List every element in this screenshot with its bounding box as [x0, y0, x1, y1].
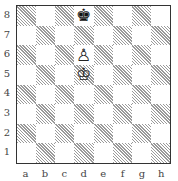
square-b3[interactable]	[36, 104, 55, 124]
rank-label-2: 2	[2, 127, 12, 138]
square-a3[interactable]	[17, 104, 36, 124]
rank-label-6: 6	[2, 48, 12, 59]
rank-label-5: 5	[2, 68, 12, 79]
square-h8[interactable]	[151, 6, 170, 26]
file-label-h: h	[152, 168, 171, 179]
square-d4[interactable]	[74, 85, 93, 105]
square-c4[interactable]	[55, 85, 74, 105]
square-f1[interactable]	[113, 143, 132, 163]
square-a1[interactable]	[17, 143, 36, 163]
black-king-icon[interactable]: ♚	[76, 7, 91, 24]
square-f2[interactable]	[113, 124, 132, 144]
square-g1[interactable]	[132, 143, 151, 163]
square-h2[interactable]	[151, 124, 170, 144]
square-g7[interactable]	[132, 26, 151, 46]
square-f5[interactable]	[113, 65, 132, 85]
square-e6[interactable]	[94, 45, 113, 65]
square-d3[interactable]	[74, 104, 93, 124]
rank-label-1: 1	[2, 146, 12, 157]
square-b6[interactable]	[36, 45, 55, 65]
square-d5[interactable]: ♔	[74, 65, 93, 85]
square-a5[interactable]	[17, 65, 36, 85]
square-d6[interactable]: ♙	[74, 45, 93, 65]
square-d2[interactable]	[74, 124, 93, 144]
square-b8[interactable]	[36, 6, 55, 26]
square-b5[interactable]	[36, 65, 55, 85]
square-h6[interactable]	[151, 45, 170, 65]
square-c6[interactable]	[55, 45, 74, 65]
square-c8[interactable]	[55, 6, 74, 26]
file-label-d: d	[74, 168, 93, 179]
square-g6[interactable]	[132, 45, 151, 65]
square-a6[interactable]	[17, 45, 36, 65]
square-h7[interactable]	[151, 26, 170, 46]
square-f8[interactable]	[113, 6, 132, 26]
square-f6[interactable]	[113, 45, 132, 65]
file-label-c: c	[55, 168, 74, 179]
file-label-g: g	[132, 168, 151, 179]
square-g4[interactable]	[132, 85, 151, 105]
square-g3[interactable]	[132, 104, 151, 124]
rank-label-8: 8	[2, 9, 12, 20]
square-h3[interactable]	[151, 104, 170, 124]
rank-label-3: 3	[2, 107, 12, 118]
square-g8[interactable]	[132, 6, 151, 26]
square-a4[interactable]	[17, 85, 36, 105]
file-label-b: b	[35, 168, 54, 179]
square-d8[interactable]: ♚	[74, 6, 93, 26]
square-f7[interactable]	[113, 26, 132, 46]
square-b1[interactable]	[36, 143, 55, 163]
square-g2[interactable]	[132, 124, 151, 144]
rank-label-7: 7	[2, 29, 12, 40]
rank-label-4: 4	[2, 87, 12, 98]
square-e1[interactable]	[94, 143, 113, 163]
square-e3[interactable]	[94, 104, 113, 124]
square-e4[interactable]	[94, 85, 113, 105]
square-e7[interactable]	[94, 26, 113, 46]
square-h5[interactable]	[151, 65, 170, 85]
square-e2[interactable]	[94, 124, 113, 144]
square-h1[interactable]	[151, 143, 170, 163]
square-b2[interactable]	[36, 124, 55, 144]
file-label-f: f	[113, 168, 132, 179]
square-c2[interactable]	[55, 124, 74, 144]
white-pawn-icon[interactable]: ♙	[76, 47, 91, 64]
white-king-icon[interactable]: ♔	[76, 66, 91, 83]
chess-board: ♚♙♔	[16, 5, 171, 164]
square-c7[interactable]	[55, 26, 74, 46]
square-d7[interactable]	[74, 26, 93, 46]
square-a8[interactable]	[17, 6, 36, 26]
file-label-a: a	[16, 168, 35, 179]
square-c5[interactable]	[55, 65, 74, 85]
square-f4[interactable]	[113, 85, 132, 105]
file-label-e: e	[94, 168, 113, 179]
square-f3[interactable]	[113, 104, 132, 124]
square-c3[interactable]	[55, 104, 74, 124]
square-h4[interactable]	[151, 85, 170, 105]
square-b7[interactable]	[36, 26, 55, 46]
square-b4[interactable]	[36, 85, 55, 105]
square-g5[interactable]	[132, 65, 151, 85]
square-e5[interactable]	[94, 65, 113, 85]
square-e8[interactable]	[94, 6, 113, 26]
square-a2[interactable]	[17, 124, 36, 144]
square-d1[interactable]	[74, 143, 93, 163]
square-c1[interactable]	[55, 143, 74, 163]
square-a7[interactable]	[17, 26, 36, 46]
